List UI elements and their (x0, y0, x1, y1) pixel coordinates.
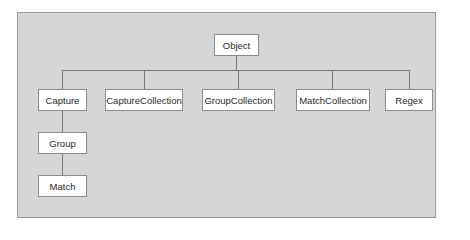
node-group-collection: GroupCollection (202, 89, 275, 111)
connector-group-collection (238, 70, 239, 89)
connector-capture (62, 70, 63, 89)
connector-object-trunk (236, 56, 237, 70)
node-group: Group (38, 132, 87, 154)
connector-match-collection (332, 70, 333, 89)
node-capture: Capture (38, 89, 87, 111)
connector-capture-group (62, 111, 63, 132)
node-match: Match (38, 175, 87, 197)
connector-group-match (62, 154, 63, 175)
node-capture-collection: CaptureCollection (105, 89, 183, 111)
node-match-collection: MatchCollection (296, 89, 370, 111)
connector-horizontal-bus (62, 70, 409, 71)
connector-regex (409, 70, 410, 89)
node-object: Object (214, 34, 259, 56)
connector-capture-collection (144, 70, 145, 89)
node-regex: Regex (385, 89, 433, 111)
